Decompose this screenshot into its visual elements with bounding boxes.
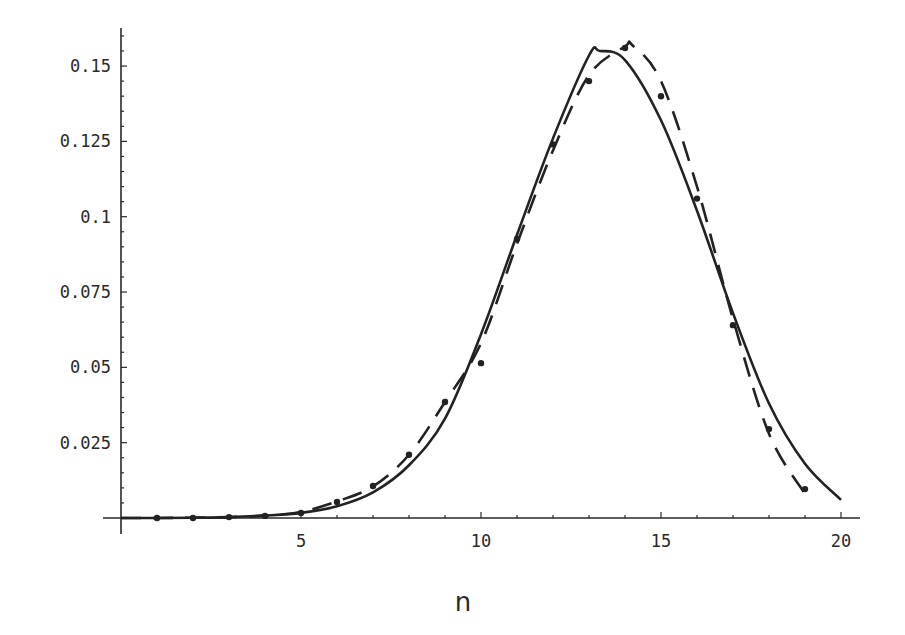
y-tick-label: 0.1 <box>80 207 111 227</box>
data-point <box>406 452 412 458</box>
data-point <box>334 499 340 505</box>
data-point <box>442 399 448 405</box>
data-point <box>586 78 592 84</box>
data-point <box>550 141 556 147</box>
data-point <box>514 236 520 242</box>
data-point <box>622 45 628 51</box>
axes: 5101520 0.0250.050.0750.10.1250.15 <box>60 28 860 551</box>
y-tick-label: 0.15 <box>70 56 111 76</box>
y-tick-label: 0.125 <box>60 131 111 151</box>
dashed-line <box>121 42 805 518</box>
data-point <box>262 513 268 519</box>
solid-line <box>121 47 841 518</box>
data-point <box>190 515 196 521</box>
x-tick-label: 5 <box>296 531 306 551</box>
x-tick-label: 10 <box>471 531 491 551</box>
solid-curve <box>121 47 841 518</box>
data-point <box>658 93 664 99</box>
data-point <box>802 486 808 492</box>
data-point <box>730 322 736 328</box>
data-point <box>298 510 304 516</box>
y-tick-label: 0.025 <box>60 433 111 453</box>
data-point <box>154 515 160 521</box>
data-point <box>226 514 232 520</box>
data-point <box>370 483 376 489</box>
chart: 5101520 0.0250.050.0750.10.1250.15 n <box>0 0 905 635</box>
data-points <box>154 45 808 521</box>
x-axis-title: n <box>455 587 471 617</box>
dashed-curve <box>121 42 805 518</box>
y-tick-label: 0.075 <box>60 282 111 302</box>
y-ticks: 0.0250.050.0750.10.1250.15 <box>60 36 127 503</box>
data-point <box>478 360 484 366</box>
data-point <box>766 426 772 432</box>
data-point <box>694 195 700 201</box>
x-tick-label: 15 <box>651 531 671 551</box>
y-tick-label: 0.05 <box>70 357 111 377</box>
x-tick-label: 20 <box>831 531 851 551</box>
